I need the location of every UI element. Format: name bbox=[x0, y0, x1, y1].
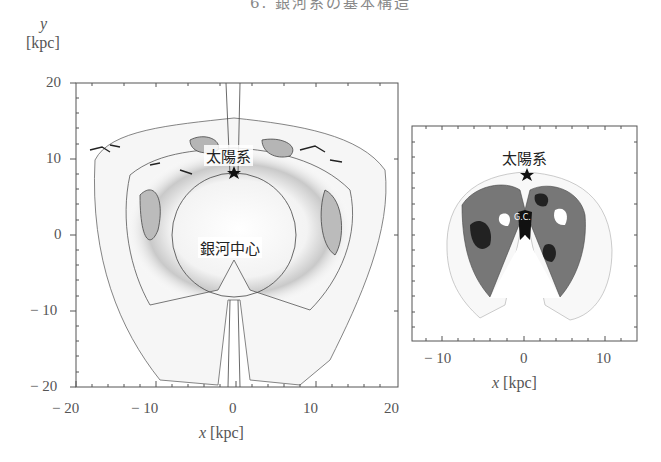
right-x-axis-unit: [kpc] bbox=[503, 374, 537, 391]
right-sun-label: 太陽系 bbox=[500, 147, 549, 168]
right-x-axis-title: x [kpc] bbox=[492, 374, 537, 392]
right-x-axis-var: x bbox=[492, 374, 499, 391]
right-x-tick: − 10 bbox=[424, 350, 451, 367]
right-galactic-center-label: G.C. bbox=[514, 213, 531, 222]
right-x-tick: 0 bbox=[520, 350, 528, 367]
right-plot-graphic bbox=[0, 0, 661, 462]
right-x-tick: 10 bbox=[596, 350, 611, 367]
